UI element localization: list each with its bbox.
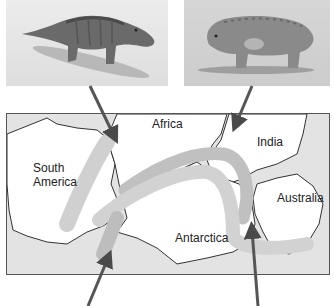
lizard-reptile-icon: [6, 0, 168, 86]
left-animal-panel: [6, 0, 168, 86]
label-africa: Africa: [152, 118, 183, 131]
label-south-america-line1: South: [33, 162, 64, 175]
right-animal-panel: [184, 0, 330, 86]
label-india: India: [257, 136, 283, 149]
stout-reptile-icon: [184, 0, 330, 86]
label-antarctica: Antarctica: [175, 232, 228, 245]
label-australia: Australia: [277, 192, 324, 205]
gondwana-map: Africa India South America Australia Ant…: [6, 113, 330, 275]
label-south-america-line2: America: [33, 176, 77, 189]
